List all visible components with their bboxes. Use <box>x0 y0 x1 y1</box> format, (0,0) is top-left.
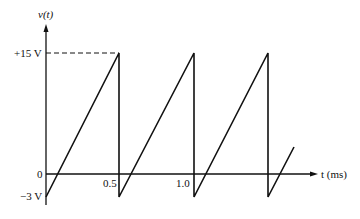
sawtooth-chart: v(t) +15 V 0 −3 V 0.5 1.0 t (ms) <box>0 0 360 219</box>
x-tick-one-label: 1.0 <box>176 177 190 189</box>
x-axis-arrow-icon <box>310 172 318 177</box>
y-axis-arrow-icon <box>44 24 49 32</box>
x-tick-half-label: 0.5 <box>103 177 117 189</box>
y-tick-min-label: −3 V <box>20 190 42 202</box>
y-axis-label: v(t) <box>38 8 54 21</box>
sawtooth-waveform <box>46 53 294 197</box>
y-tick-max-label: +15 V <box>14 47 42 59</box>
y-tick-zero-label: 0 <box>37 168 43 180</box>
x-axis-label: t (ms) <box>321 168 347 181</box>
